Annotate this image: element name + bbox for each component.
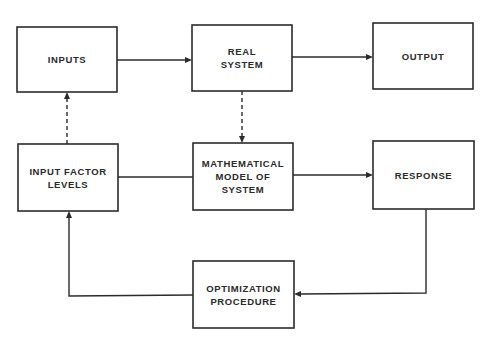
input-factor-levels-label: INPUT FACTOR LEVELS	[18, 144, 118, 211]
arrowhead-down-icon	[239, 136, 245, 143]
inputs-label: INPUTS	[17, 27, 117, 92]
arrowhead-up-icon	[66, 211, 72, 218]
arrowhead-right-icon	[185, 57, 192, 63]
output-label: OUTPUT	[373, 23, 473, 89]
edge-inputs-to-real-system	[117, 57, 192, 63]
edge-response-to-optimization-procedure	[294, 209, 426, 297]
arrowhead-left-icon	[294, 291, 301, 297]
mathematical-model-label: MATHEMATICAL MODEL OF SYSTEM	[193, 143, 293, 210]
real-system-label: REAL SYSTEM	[192, 25, 292, 91]
arrowhead-up-icon	[64, 92, 70, 99]
arrowhead-right-icon	[366, 54, 373, 60]
edge-optimization-procedure-to-input-factor-levels	[66, 211, 193, 296]
edge-real-system-to-mathematical-model	[239, 91, 245, 143]
response-label: RESPONSE	[373, 141, 474, 209]
arrowhead-right-icon	[366, 172, 373, 178]
edge-input-factor-levels-to-inputs	[64, 92, 70, 144]
edge-real-system-to-output	[292, 54, 373, 60]
optimization-procedure-label: OPTIMIZATION PROCEDURE	[193, 261, 294, 328]
edge-mathematical-model-to-response	[293, 172, 373, 178]
